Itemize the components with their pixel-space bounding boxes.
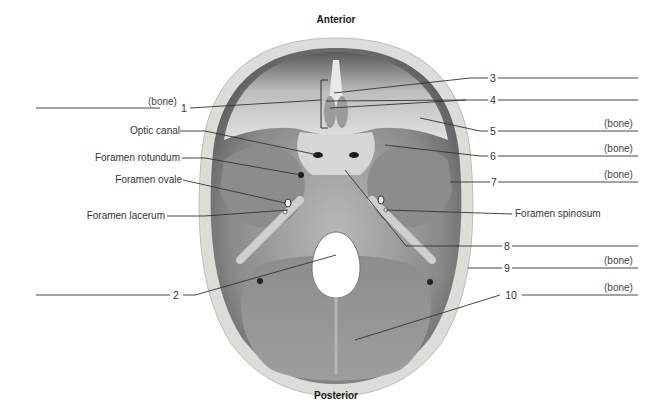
label-optic-canal: Optic canal	[130, 125, 180, 137]
orientation-posterior: Posterior	[314, 390, 358, 401]
label-5-number: 5	[490, 125, 496, 137]
label-foramen-spinosum: Foramen spinosum	[515, 208, 601, 220]
label-10-bone-hint: (bone)	[604, 282, 633, 294]
skull-base-figure: Anterior Posterior (bone) 1 2 Optic cana…	[0, 0, 672, 409]
optic-canal-right	[349, 152, 359, 158]
label-6-bone-hint: (bone)	[604, 143, 633, 155]
label-9-bone-hint: (bone)	[604, 255, 633, 267]
label-foramen-rotundum: Foramen rotundum	[95, 152, 180, 164]
sphenoid-body	[297, 132, 375, 175]
label-8-number: 8	[504, 240, 510, 252]
foramen-magnum	[312, 232, 360, 298]
label-7-number: 7	[491, 176, 497, 188]
skull-illustration	[0, 0, 672, 409]
label-9-number: 9	[504, 262, 510, 274]
label-3-number: 3	[490, 72, 496, 84]
label-foramen-lacerum: Foramen lacerum	[87, 210, 165, 222]
foramen-ovale-right	[378, 196, 384, 204]
label-7-bone-hint: (bone)	[604, 169, 633, 181]
label-6-number: 6	[490, 150, 496, 162]
foramen-ovale-left	[285, 199, 291, 207]
label-5-bone-hint: (bone)	[604, 118, 633, 130]
label-4-number: 4	[490, 94, 496, 106]
orientation-anterior: Anterior	[317, 14, 356, 25]
label-foramen-ovale: Foramen ovale	[115, 174, 182, 186]
label-2-number: 2	[173, 289, 179, 301]
label-1-bone-hint: (bone)	[148, 96, 177, 108]
label-1-number: 1	[181, 102, 187, 114]
label-10-number: 10	[505, 289, 517, 301]
